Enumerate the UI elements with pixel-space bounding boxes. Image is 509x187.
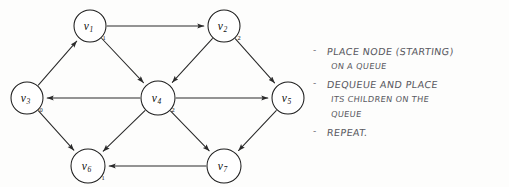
note-line-2-0: REPEAT.	[326, 127, 368, 138]
graph-edge-v3-to-v1	[38, 41, 76, 85]
node-distance-label-v1: 1	[102, 34, 105, 41]
graph-edge-v2-to-v5	[235, 39, 274, 83]
graph-node-v5[interactable]: v5	[272, 82, 304, 114]
graph-node-v1[interactable]: v11	[74, 10, 106, 42]
node-distance-label-v4: 2	[171, 106, 174, 113]
graph-edge-v4-to-v6	[103, 111, 145, 152]
graph-node-v6[interactable]: v61	[71, 149, 105, 183]
note-line-0-0: PLACE NODE (STARTING)	[326, 46, 454, 57]
handwritten-notes: -PLACE NODE (STARTING)ON A QUEUE-DEQUEUE…	[313, 46, 509, 171]
note-bullet-marker-1: -	[313, 78, 316, 88]
note-bullet-marker-2: -	[313, 126, 316, 136]
node-distance-label-v2: 2	[237, 34, 240, 41]
graph-node-v3[interactable]: v30	[11, 82, 43, 114]
graph-edge-v1-to-v4	[102, 39, 144, 83]
graph-node-v4[interactable]: v42	[141, 81, 175, 115]
note-bullet-marker-0: -	[313, 45, 316, 55]
node-distance-label-v6: 1	[101, 174, 104, 181]
graph-edge-v5-to-v7	[239, 111, 277, 151]
diagram-scene: v11v22v30v42v5v61v7 -PLACE NODE (STARTIN…	[0, 0, 509, 187]
graph-edge-v4-to-v7	[171, 111, 210, 151]
graph-node-v2[interactable]: v22	[208, 10, 241, 42]
graph-edge-v2-to-v4	[172, 39, 212, 83]
note-line-1-2: QUEUE	[330, 109, 362, 119]
note-line-1-0: DEQUEUE AND PLACE	[326, 79, 438, 90]
graph-nodes: v11v22v30v42v5v61v7	[11, 10, 304, 183]
graph-edge-v3-to-v6	[38, 111, 73, 150]
node-distance-label-v3: 0	[39, 106, 42, 113]
graph-node-v7[interactable]: v7	[207, 149, 241, 183]
note-line-0-1: ON A QUEUE	[330, 61, 387, 71]
note-line-1-1: ITS CHILDREN ON THE	[330, 94, 429, 104]
